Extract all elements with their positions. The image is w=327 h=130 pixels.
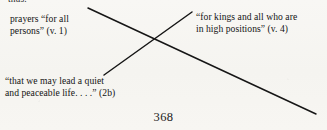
diagram-label-kings: “for kings and all who are in high posit…: [196, 11, 297, 36]
diagram-label-prayers-line-1: prayers “for all: [10, 13, 69, 25]
diagram-label-quiet-life-line-2: and peaceable life. . . .” (2b): [5, 87, 115, 99]
diagram-label-quiet-life-line-1: “that we may lead a quiet: [5, 75, 115, 87]
diagram-label-prayers: prayers “for all persons” (v. 1): [10, 13, 69, 38]
diagram-label-kings-line-1: “for kings and all who are: [196, 11, 297, 23]
connector-ascending-line: [104, 12, 192, 75]
clipped-text-above: thus.: [8, 0, 27, 4]
diagram-label-prayers-line-2: persons” (v. 1): [10, 25, 69, 37]
diagram-label-quiet-life: “that we may lead a quiet and peaceable …: [5, 75, 115, 100]
page-number: 368: [0, 110, 327, 125]
diagram-label-kings-line-2: in high positions” (v. 4): [196, 23, 297, 35]
scanned-page: thus. prayers “for all persons” (v. 1) “…: [0, 0, 327, 130]
